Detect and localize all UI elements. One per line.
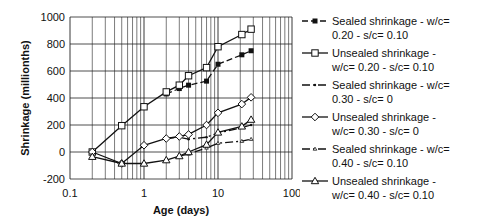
legend-swatch-icon	[300, 110, 330, 124]
legend-label: Unsealed shrinkage - w/c= 0.20 - s/c= 0.…	[332, 46, 436, 74]
x-axis-title: Age (days)	[153, 204, 210, 216]
y-tick-label: 200	[47, 119, 65, 131]
legend-item: Unsealed shrinkage - w/c= 0.20 - s/c= 0.…	[300, 46, 477, 78]
y-tick-label: -200	[43, 173, 65, 185]
legend-swatch-icon	[300, 174, 330, 188]
legend-label: Sealed shrinkage - w/c= 0.40 - s/c= 0.10	[332, 142, 450, 170]
y-tick-label: 400	[47, 92, 65, 104]
legend: Sealed shrinkage - w/c= 0.20 - s/c= 0.10…	[300, 14, 477, 206]
legend-swatch-icon	[300, 142, 330, 156]
tick-labels: -200020040060080010000.1110100	[41, 11, 300, 199]
y-tick-label: 600	[47, 65, 65, 77]
series-line	[89, 116, 255, 166]
y-tick-label: 0	[59, 146, 65, 158]
legend-item: Unsealed shrinkage - w/c= 0.30 - s/c= 0	[300, 110, 477, 142]
series-line	[89, 26, 254, 155]
x-tick-label: 1	[141, 187, 147, 199]
legend-item: Sealed shrinkage - w/c= 0.30 - s/c= 0	[300, 78, 477, 110]
x-tick-label: 0.1	[62, 187, 77, 199]
legend-label: Unsealed shrinkage - w/c= 0.30 - s/c= 0	[332, 110, 436, 138]
legend-item: Unsealed shrinkage - w/c= 0.40 - s/c= 0.…	[300, 174, 477, 206]
legend-label: Sealed shrinkage - w/c= 0.20 - s/c= 0.10	[332, 14, 450, 42]
y-tick-label: 1000	[41, 11, 65, 23]
legend-swatch-icon	[300, 46, 330, 60]
legend-item: Sealed shrinkage - w/c= 0.40 - s/c= 0.10	[300, 142, 477, 174]
legend-swatch-icon	[300, 78, 330, 92]
y-tick-label: 800	[47, 38, 65, 50]
legend-swatch-icon	[300, 14, 330, 28]
chart-plot: -200020040060080010000.1110100 Age (days…	[0, 0, 300, 224]
legend-item: Sealed shrinkage - w/c= 0.20 - s/c= 0.10	[300, 14, 477, 46]
legend-label: Unsealed shrinkage - w/c= 0.40 - s/c= 0.…	[332, 174, 436, 202]
x-tick-label: 10	[212, 187, 224, 199]
y-axis-title: Shrinkage (millionths)	[19, 40, 31, 156]
x-tick-label: 100	[283, 187, 300, 199]
series-layer	[88, 26, 254, 167]
legend-label: Sealed shrinkage - w/c= 0.30 - s/c= 0	[332, 78, 450, 106]
